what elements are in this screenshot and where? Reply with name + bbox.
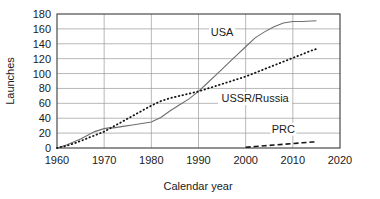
x-tick-2020: 2020 xyxy=(328,154,352,166)
series-label-ussr-russia: USSR/Russia xyxy=(221,92,289,104)
y-tick-60: 60 xyxy=(39,97,51,109)
x-tick-1970: 1970 xyxy=(92,154,116,166)
x-tick-1980: 1980 xyxy=(139,154,163,166)
x-tick-2000: 2000 xyxy=(233,154,257,166)
y-tick-160: 160 xyxy=(33,23,51,35)
x-axis-tick-labels: 1960197019801990200020102020 xyxy=(45,154,352,166)
y-tick-80: 80 xyxy=(39,82,51,94)
series-line-prc xyxy=(246,142,317,147)
x-tick-1990: 1990 xyxy=(186,154,210,166)
series-label-usa: USA xyxy=(211,26,234,38)
y-axis-tick-labels: 020406080100120140160180 xyxy=(33,8,51,154)
x-tick-2010: 2010 xyxy=(281,154,305,166)
chart-container: 020406080100120140160180 196019701980199… xyxy=(0,0,380,199)
series-label-prc: PRC xyxy=(272,123,295,135)
x-tick-1960: 1960 xyxy=(45,154,69,166)
y-tick-180: 180 xyxy=(33,8,51,20)
y-tick-120: 120 xyxy=(33,53,51,65)
series-annotations: USAUSSR/RussiaPRC xyxy=(209,26,296,136)
y-tick-20: 20 xyxy=(39,127,51,139)
x-axis-title: Calendar year xyxy=(163,180,232,192)
vertical-gridlines xyxy=(104,14,293,148)
launches-by-country-line-chart: 020406080100120140160180 196019701980199… xyxy=(0,0,380,199)
y-tick-100: 100 xyxy=(33,68,51,80)
y-tick-140: 140 xyxy=(33,38,51,50)
y-tick-0: 0 xyxy=(45,142,51,154)
y-tick-40: 40 xyxy=(39,112,51,124)
y-axis-title: Launches xyxy=(4,57,16,105)
